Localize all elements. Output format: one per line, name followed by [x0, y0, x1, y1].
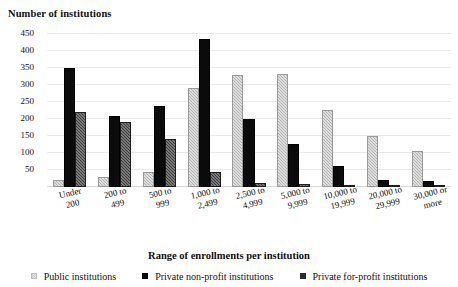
bar-nonprofit [288, 144, 299, 187]
bar-public [277, 74, 288, 187]
legend-swatch-public-icon [31, 273, 37, 279]
chart-legend: Public institutionsPrivate non-profit in… [0, 268, 458, 284]
bar-forprofit [120, 122, 131, 187]
y-axis-title: Number of institutions [8, 8, 112, 19]
bar-nonprofit [378, 180, 389, 187]
bar-nonprofit [243, 119, 254, 187]
bar-forprofit [75, 112, 86, 187]
y-axis-tick-label: 300 [0, 80, 34, 89]
bar-public [143, 172, 154, 187]
legend-item[interactable]: Public institutions [31, 271, 117, 282]
y-axis-tick-label: 100 [0, 148, 34, 157]
y-axis-tick-label: 400 [0, 46, 34, 55]
bar-nonprofit [199, 39, 210, 187]
bar-nonprofit [154, 106, 165, 187]
y-axis-tick-label: 150 [0, 131, 34, 140]
plot-area: 50100150200250300350400450 [47, 27, 451, 187]
x-axis-title: Range of enrollments per institution [0, 250, 458, 261]
bar-public [188, 88, 199, 187]
bar-public [232, 75, 243, 187]
y-axis-tick-label: 50 [0, 165, 34, 174]
bar-nonprofit [109, 116, 120, 187]
legend-swatch-forprofit-icon [300, 273, 306, 279]
legend-label: Public institutions [44, 271, 117, 282]
bar-nonprofit [64, 68, 75, 187]
bar-nonprofit [333, 166, 344, 187]
x-axis-category-labels: Under 200200 to 499500 to 9991,000 to 2,… [47, 188, 451, 246]
bar-public [98, 177, 109, 187]
legend-swatch-nonprofit-icon [142, 273, 148, 279]
bar-public [367, 136, 378, 187]
bar-chart: Number of institutions 50100150200250300… [0, 0, 458, 287]
y-axis-tick-label: 250 [0, 97, 34, 106]
bar-public [412, 151, 423, 187]
bar-forprofit [165, 139, 176, 187]
bar-public [53, 180, 64, 187]
legend-item[interactable]: Private non-profit institutions [142, 271, 273, 282]
legend-item[interactable]: Private for-profit institutions [300, 271, 428, 282]
y-axis-tick-label: 450 [0, 29, 34, 38]
legend-label: Private non-profit institutions [155, 271, 273, 282]
bar-public [322, 110, 333, 187]
y-axis-tick-label: 350 [0, 63, 34, 72]
bars-layer [47, 27, 451, 187]
legend-label: Private for-profit institutions [313, 271, 428, 282]
y-axis-tick-label: 200 [0, 114, 34, 123]
